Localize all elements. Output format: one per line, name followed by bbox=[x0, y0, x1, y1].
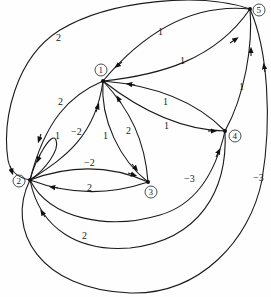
edge-weight-4-5: 1 bbox=[239, 81, 244, 92]
edge-2-5: −3 bbox=[22, 9, 267, 293]
node-3: 3 bbox=[145, 180, 157, 198]
edge-5-2: 2 bbox=[7, 0, 250, 180]
edge-2-4: −3 bbox=[30, 131, 225, 222]
node-2: 2 bbox=[13, 175, 32, 187]
edge-weight-4-2: 2 bbox=[82, 230, 87, 241]
node-5-label: 5 bbox=[257, 5, 262, 15]
edge-3-2: 2 bbox=[30, 180, 148, 193]
node-1: 1 bbox=[95, 64, 107, 83]
edge-weight-3-2: 2 bbox=[87, 182, 92, 193]
edge-5-1: 1 bbox=[103, 8, 250, 81]
node-3-label: 3 bbox=[149, 187, 154, 197]
edge-weight-1-5: 1 bbox=[180, 55, 185, 66]
graph-diagram: 2 1 1 1 1 1 2 −2 bbox=[0, 0, 271, 297]
edge-weight-2-5: −3 bbox=[253, 172, 264, 183]
edge-3-1: 2 bbox=[103, 81, 148, 182]
edge-weight-2-3: −2 bbox=[84, 157, 95, 168]
edge-weight-1-3: 1 bbox=[103, 130, 108, 141]
edge-weight-1-2: 2 bbox=[58, 96, 63, 107]
edge-4-5: 1 bbox=[225, 9, 251, 131]
edge-weight-1-4: 1 bbox=[164, 120, 169, 131]
edge-weight-2-4: −3 bbox=[184, 173, 195, 184]
edge-weight-4-1: 1 bbox=[163, 96, 168, 107]
edge-weight-2-2: 1 bbox=[55, 130, 60, 141]
node-1-label: 1 bbox=[99, 65, 104, 75]
edge-weight-3-1: 2 bbox=[126, 125, 131, 136]
node-4-label: 4 bbox=[233, 131, 238, 141]
node-2-label: 2 bbox=[17, 176, 22, 186]
edge-weight-5-2: 2 bbox=[56, 32, 61, 43]
edge-2-3: −2 bbox=[30, 157, 148, 182]
edge-1-5: 1 bbox=[103, 9, 250, 81]
edge-weight-5-1: 1 bbox=[158, 26, 163, 37]
edge-weight-2-1: −2 bbox=[71, 126, 82, 137]
edge-4-2: 2 bbox=[30, 131, 225, 248]
